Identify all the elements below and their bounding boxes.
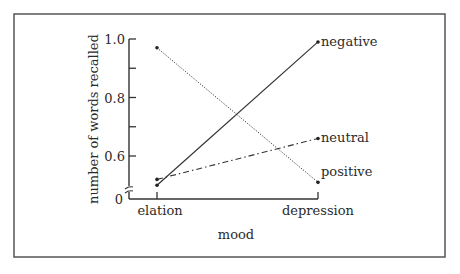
data-point-positive: [155, 46, 159, 50]
x-tick-label: depression: [282, 203, 355, 218]
y-ticks: 1.00.80.6: [104, 32, 136, 164]
x-axis-title: mood: [218, 227, 254, 242]
y-tick-label: 1.0: [104, 32, 125, 47]
series-line-neutral: [157, 138, 318, 179]
figure-frame: [14, 14, 445, 257]
y-tick-label: 0.6: [104, 149, 125, 164]
series-label-positive: positive: [321, 164, 373, 179]
series-label-negative: negative: [321, 34, 378, 49]
y-axis-break-mark: [125, 187, 133, 189]
x-ticks: elationdepression: [137, 192, 354, 218]
y-zero-label: 0: [115, 192, 123, 207]
data-point-neutral: [155, 178, 159, 182]
axes: 0: [115, 39, 318, 207]
data-point-neutral: [316, 137, 320, 141]
series-line-negative: [157, 42, 318, 185]
x-tick-label: elation: [137, 203, 183, 218]
series-lines: [155, 40, 320, 187]
series-label-neutral: neutral: [321, 130, 369, 145]
y-axis-title: number of words recalled: [86, 34, 101, 204]
data-point-positive: [316, 181, 320, 185]
labels: negativeneutralpositive: [321, 34, 378, 179]
chart: 0 1.00.80.6 elationdepression negativene…: [0, 0, 460, 274]
y-tick-label: 0.8: [104, 91, 125, 106]
series-line-positive: [157, 48, 318, 183]
data-point-negative: [155, 183, 159, 187]
data-point-negative: [316, 40, 320, 44]
